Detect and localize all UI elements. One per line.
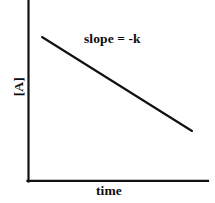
y-axis-label: [A] [12, 77, 26, 96]
x-axis-label: time [96, 184, 122, 198]
slope-annotation: slope = -k [84, 32, 141, 46]
zero-order-plot-figure: slope = -k [A] time [0, 0, 215, 203]
